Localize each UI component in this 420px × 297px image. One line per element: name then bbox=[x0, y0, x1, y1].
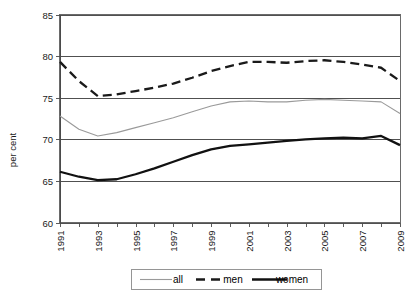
series-line-women bbox=[60, 136, 400, 180]
y-axis-tick-labels: 606570758085 bbox=[42, 10, 53, 229]
y-tick-label-85: 85 bbox=[42, 10, 53, 21]
legend-item-men[interactable]: men bbox=[196, 274, 243, 285]
x-tick-label-1997: 1997 bbox=[168, 231, 179, 252]
y-tick-label-60: 60 bbox=[42, 218, 53, 229]
y-axis-title: per cent bbox=[7, 132, 18, 167]
y-tick-label-65: 65 bbox=[42, 176, 53, 187]
chart-container: 606570758085 199119931995199719992001200… bbox=[0, 0, 420, 297]
y-tick-label-75: 75 bbox=[42, 93, 53, 104]
chart-legend: allmenwomen bbox=[132, 270, 322, 290]
y-axis-title-label: per cent bbox=[7, 132, 18, 167]
legend-label-all: all bbox=[173, 274, 183, 285]
x-tick-label-2001: 2001 bbox=[244, 231, 255, 252]
legend-label-men: men bbox=[223, 274, 242, 285]
legend-item-women[interactable]: women bbox=[252, 274, 308, 285]
x-tick-label-2007: 2007 bbox=[357, 231, 368, 252]
x-tick-label-1993: 1993 bbox=[93, 231, 104, 252]
series-line-all bbox=[60, 99, 400, 136]
plot-frame bbox=[60, 15, 401, 223]
gridlines bbox=[60, 16, 400, 224]
y-tick-label-70: 70 bbox=[42, 134, 53, 145]
legend-label-women: women bbox=[275, 274, 308, 285]
legend-item-all[interactable]: all bbox=[140, 274, 183, 285]
x-tick-label-1991: 1991 bbox=[55, 231, 66, 252]
legend-items: allmenwomen bbox=[140, 274, 308, 285]
x-tick-label-1995: 1995 bbox=[131, 231, 142, 252]
line-chart: 606570758085 199119931995199719992001200… bbox=[0, 0, 420, 297]
x-axis-tick-labels: 1991199319951997199920012003200520072009 bbox=[55, 231, 406, 252]
x-tick-label-2009: 2009 bbox=[395, 231, 406, 252]
x-tick-label-1999: 1999 bbox=[206, 231, 217, 252]
x-tick-label-2003: 2003 bbox=[282, 231, 293, 252]
y-tick-label-80: 80 bbox=[42, 51, 53, 62]
series-line-men bbox=[60, 60, 400, 96]
data-series bbox=[60, 60, 400, 180]
x-tick-label-2005: 2005 bbox=[319, 231, 330, 252]
